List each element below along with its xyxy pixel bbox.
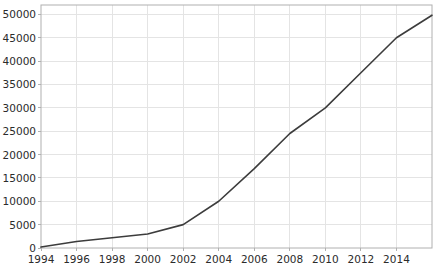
y-tick-label: 5000 (9, 219, 36, 231)
y-tick-label: 40000 (3, 55, 36, 67)
x-tick-label: 1998 (99, 253, 126, 265)
x-tick-label: 1994 (28, 253, 55, 265)
vertical-gridlines (77, 5, 397, 248)
y-tick-label: 50000 (3, 8, 36, 20)
x-tick-label: 2006 (241, 253, 268, 265)
y-tick-label: 35000 (3, 78, 36, 90)
y-tick-label: 30000 (3, 102, 36, 114)
y-tick-label: 15000 (3, 172, 36, 184)
plot-frame-border (41, 5, 432, 248)
x-tick-label: 2014 (383, 253, 410, 265)
horizontal-gridlines (41, 14, 432, 224)
line-chart: 0500010000150002000025000300003500040000… (0, 0, 441, 269)
plot-canvas (0, 0, 441, 269)
x-tick-label: 1996 (63, 253, 90, 265)
x-tick-label: 2010 (312, 253, 339, 265)
x-tick-label: 2002 (170, 253, 197, 265)
y-tick-label: 10000 (3, 195, 36, 207)
x-tick-label: 2000 (134, 253, 161, 265)
x-tick-label: 2004 (205, 253, 232, 265)
x-tick-label: 2008 (276, 253, 303, 265)
y-tick-label: 45000 (3, 32, 36, 44)
y-tick-label: 20000 (3, 149, 36, 161)
x-tick-label: 2012 (348, 253, 375, 265)
y-tick-label: 25000 (3, 125, 36, 137)
